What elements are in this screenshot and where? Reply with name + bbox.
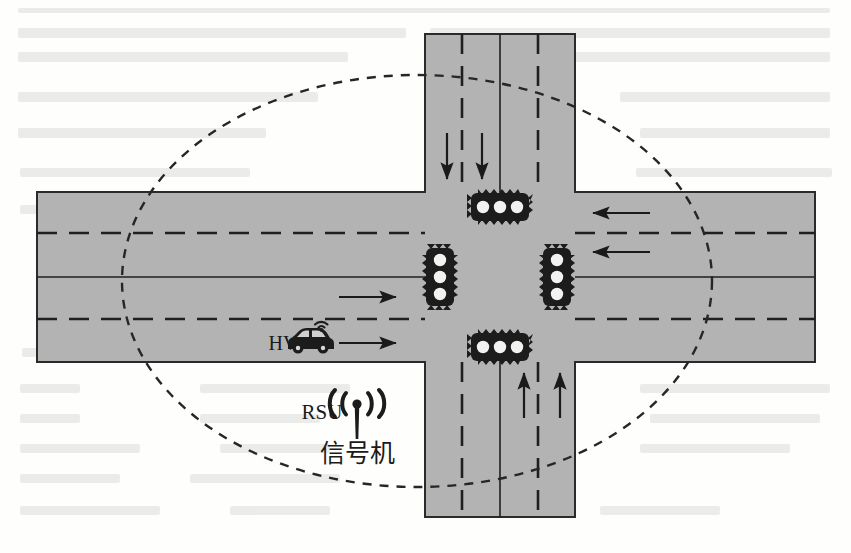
rsu-label: RSU xyxy=(302,400,343,424)
antenna-wave-inner-right xyxy=(368,393,372,415)
antenna-wave-inner-left xyxy=(342,393,346,415)
intersection-diagram: HV RSU xyxy=(0,0,851,553)
rsu-marker[interactable]: RSU 信号机 xyxy=(302,390,395,468)
traffic-light-visor-bottom xyxy=(427,305,451,310)
traffic-light-visor-bottom xyxy=(544,305,568,310)
south-approach-signal[interactable] xyxy=(467,329,533,365)
traffic-lamp-1 xyxy=(551,254,563,266)
traffic-light-visor-top xyxy=(544,244,568,249)
traffic-lamp-3 xyxy=(511,201,523,213)
traffic-lamp-3 xyxy=(551,288,563,300)
traffic-light-visor-left xyxy=(467,194,472,218)
traffic-light-visor-top xyxy=(427,244,451,249)
traffic-lamp-1 xyxy=(477,201,489,213)
traffic-lamp-3 xyxy=(511,341,523,353)
car-wheel-front-hub xyxy=(296,346,300,350)
north-approach-signal[interactable] xyxy=(467,189,533,225)
east-approach-signal[interactable] xyxy=(539,244,575,310)
antenna-emitter xyxy=(352,399,361,408)
traffic-lamp-1 xyxy=(434,254,446,266)
antenna-mast xyxy=(355,408,359,439)
traffic-lamp-2 xyxy=(434,271,446,283)
traffic-lamp-2 xyxy=(494,201,506,213)
traffic-lamp-1 xyxy=(477,341,489,353)
diagram-canvas: HV RSU xyxy=(0,0,851,553)
traffic-lamp-2 xyxy=(494,341,506,353)
car-wheel-rear-hub xyxy=(321,346,325,350)
v2x-antenna-dot xyxy=(320,328,324,332)
antenna-wave-outer-right xyxy=(379,390,384,417)
west-approach-signal[interactable] xyxy=(422,244,458,310)
traffic-lamp-2 xyxy=(551,271,563,283)
traffic-lamp-3 xyxy=(434,288,446,300)
rsu-label-cn: 信号机 xyxy=(320,439,395,468)
traffic-light-visor-left xyxy=(467,334,472,358)
